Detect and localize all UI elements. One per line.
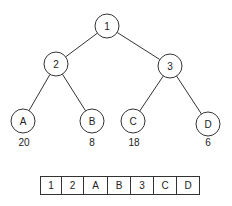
node-label: A xyxy=(20,116,27,127)
node-label: 2 xyxy=(53,59,59,70)
tree-node-B: B xyxy=(80,109,104,133)
tree-nodes: 123ABCD xyxy=(11,14,220,136)
node-label: D xyxy=(204,119,211,130)
tree-node-C: C xyxy=(121,109,145,133)
node-label: C xyxy=(129,116,136,127)
array-cell: B xyxy=(108,177,131,194)
edge-1-2 xyxy=(66,33,98,57)
array-cell: C xyxy=(154,177,177,194)
tree-node-2: 2 xyxy=(44,52,68,76)
edge-2-A xyxy=(29,74,50,110)
edge-3-C xyxy=(140,76,164,111)
node-label: 1 xyxy=(104,21,110,32)
tree-node-A: A xyxy=(11,109,35,133)
tree-node-D: D xyxy=(196,112,220,136)
array-cell: D xyxy=(177,177,199,194)
edge-3-D xyxy=(177,76,202,114)
array-cell: 3 xyxy=(131,177,154,194)
array-representation: 12AB3CD xyxy=(40,176,200,195)
node-label: B xyxy=(89,116,96,127)
array-cell: A xyxy=(84,177,108,194)
array-cell: 2 xyxy=(62,177,84,194)
array-cell: 1 xyxy=(41,177,62,194)
node-label: 3 xyxy=(167,61,173,72)
edge-1-3 xyxy=(117,32,160,59)
tree-node-1: 1 xyxy=(95,14,119,38)
leaf-weight-A: 20 xyxy=(18,137,29,148)
edge-2-B xyxy=(62,74,85,111)
leaf-weight-C: 18 xyxy=(128,137,139,148)
tree-node-3: 3 xyxy=(158,54,182,78)
leaf-weight-D: 6 xyxy=(205,137,211,148)
leaf-weight-B: 8 xyxy=(89,137,95,148)
